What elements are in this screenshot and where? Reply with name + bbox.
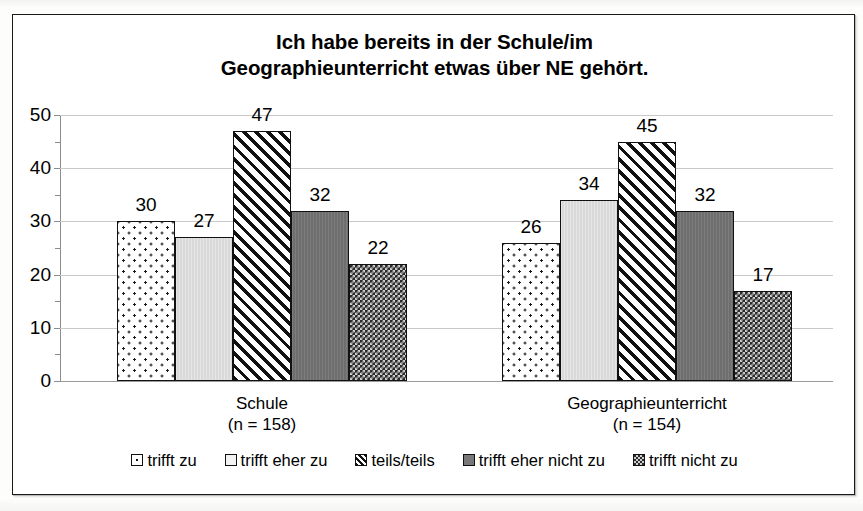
legend-item[interactable]: trifft eher zu (225, 451, 328, 469)
legend-item[interactable]: trifft eher nicht zu (463, 451, 605, 469)
bar (349, 264, 407, 381)
bar-value-label: 26 (481, 217, 581, 236)
legend-swatch-icon (633, 454, 645, 466)
category-label-n: (n = 154) (497, 414, 797, 435)
bar (502, 243, 560, 381)
legend-label: trifft nicht zu (649, 451, 738, 469)
legend-item[interactable]: trifft nicht zu (633, 451, 738, 469)
scan-edge-bottom (0, 497, 863, 511)
bar (175, 237, 233, 381)
category-label-name: Schule (112, 393, 412, 414)
bar-value-label: 17 (713, 265, 813, 284)
chart-legend: trifft zutrifft eher zuteils/teilstrifft… (13, 451, 856, 469)
y-axis-label-30: 30 (13, 211, 51, 230)
bar-value-label: 47 (212, 105, 312, 124)
bar-value-label: 32 (655, 185, 755, 204)
gridline-0 (60, 381, 833, 382)
legend-swatch-icon (131, 454, 143, 466)
legend-label: trifft zu (147, 451, 196, 469)
category-label-name: Geographieunterricht (497, 393, 797, 414)
legend-item[interactable]: trifft zu (131, 451, 196, 469)
category-label: Schule(n = 158) (112, 393, 412, 435)
bar (117, 221, 175, 381)
gridline-40 (60, 168, 833, 169)
category-label: Geographieunterricht(n = 154) (497, 393, 797, 435)
gridline-50 (60, 115, 833, 116)
scanned-page: Ich habe bereits in der Schule/im Geogra… (0, 0, 863, 511)
y-axis-label-10: 10 (13, 318, 51, 337)
bar (734, 291, 792, 381)
bar (676, 211, 734, 381)
legend-swatch-icon (355, 454, 367, 466)
scan-edge-top (0, 0, 863, 9)
bar-value-label: 34 (539, 174, 639, 193)
bar (291, 211, 349, 381)
legend-label: trifft eher nicht zu (479, 451, 605, 469)
plot-area (60, 115, 833, 381)
legend-item[interactable]: teils/teils (355, 451, 434, 469)
legend-swatch-icon (225, 454, 237, 466)
chart-title: Ich habe bereits in der Schule/im Geogra… (13, 29, 856, 81)
y-axis-label-0: 0 (13, 371, 51, 390)
y-axis-label-50: 50 (13, 105, 51, 124)
bar-value-label: 45 (597, 116, 697, 135)
legend-label: trifft eher zu (241, 451, 328, 469)
y-axis-label-20: 20 (13, 265, 51, 284)
category-label-n: (n = 158) (112, 414, 412, 435)
chart-title-line-1: Ich habe bereits in der Schule/im (13, 29, 856, 55)
legend-swatch-icon (463, 454, 475, 466)
chart-frame: Ich habe bereits in der Schule/im Geogra… (12, 14, 855, 495)
bar-value-label: 22 (328, 238, 428, 257)
bar-value-label: 27 (154, 211, 254, 230)
bar-value-label: 32 (270, 185, 370, 204)
chart-title-line-2: Geographieunterricht etwas über NE gehör… (13, 55, 856, 81)
bar (233, 131, 291, 381)
legend-label: teils/teils (371, 451, 434, 469)
y-axis-label-40: 40 (13, 158, 51, 177)
